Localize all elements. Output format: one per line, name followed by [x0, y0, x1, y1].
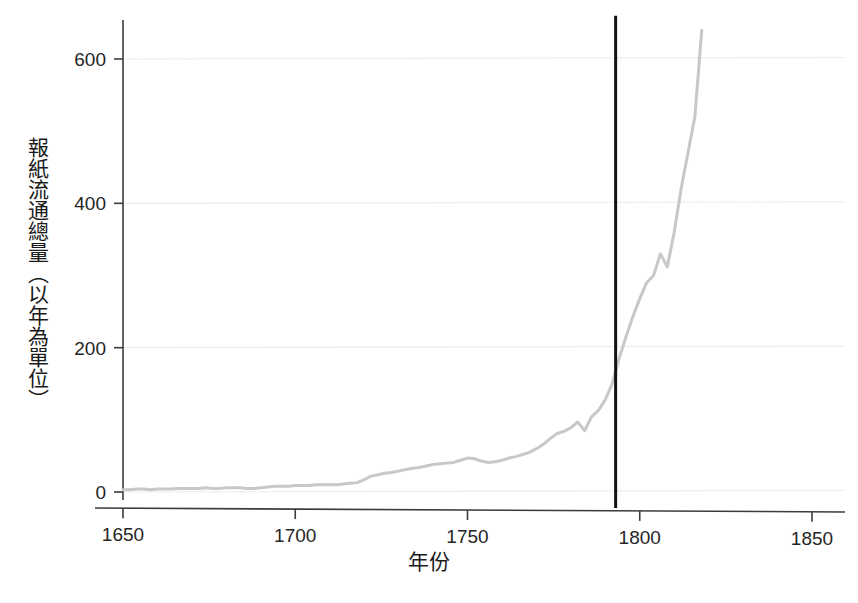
y-tick-group: 0200400600 — [74, 49, 123, 503]
x-axis-spine — [95, 508, 845, 512]
x-tick-label-1700: 1700 — [274, 525, 316, 546]
y-tick-label-400: 400 — [74, 193, 106, 214]
y-tick-label-200: 200 — [74, 338, 106, 359]
gridline-y-600 — [123, 58, 845, 60]
gridlines-group — [123, 58, 845, 493]
y-tick-label-0: 0 — [95, 482, 106, 503]
x-tick-label-1750: 1750 — [446, 526, 488, 547]
gridline-y-400 — [123, 202, 845, 204]
x-axis-title: 年份 — [0, 545, 858, 575]
chart-canvas: 0200400600 16501700175018001850 — [0, 0, 858, 603]
x-tick-label-1650: 1650 — [102, 524, 144, 545]
y-tick-label-600: 600 — [74, 49, 106, 70]
x-tick-group: 16501700175018001850 — [102, 508, 833, 549]
chart-figure: 報紙流通總量（以年為單位） 0200400600 165017001750180… — [0, 0, 858, 603]
gridline-y-0 — [123, 491, 845, 493]
gridline-y-200 — [123, 346, 845, 348]
